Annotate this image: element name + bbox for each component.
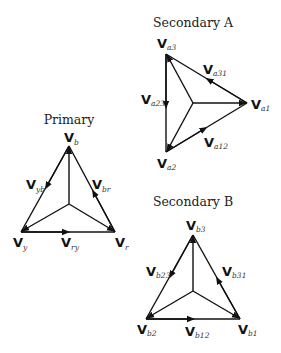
- label-vb2: Vb2: [137, 322, 157, 338]
- label-vr: Vr: [115, 235, 129, 252]
- label-va2: Va2: [157, 156, 177, 172]
- label-vb1: Vb1: [238, 322, 258, 338]
- secondary-b-diagram: Secondary B Vb3 Vb23 Vb31 Vb2 Vb12 Vb1: [137, 194, 258, 340]
- primary-title: Primary: [44, 112, 96, 127]
- label-vyb: Vyb: [26, 177, 45, 194]
- secondary-b-title: Secondary B: [153, 194, 233, 209]
- arrow-a12-icon: [166, 129, 204, 152]
- secondary-a-title: Secondary A: [153, 15, 234, 30]
- label-va3: Va3: [157, 36, 177, 52]
- label-vy: Vy: [13, 235, 28, 252]
- label-vbr: Vbr: [92, 177, 111, 194]
- label-vb3: Vb3: [186, 218, 206, 234]
- label-va12: Va12: [204, 135, 228, 151]
- label-va1: Va1: [251, 97, 270, 113]
- phasor-diagram-canvas: Primary Vb Vyb Vbr Vy Vry Vr Secondary A…: [0, 0, 281, 353]
- label-vb31: Vb31: [222, 264, 246, 280]
- arrow-b31-icon: [218, 280, 240, 319]
- arrow-b23-icon: [171, 235, 193, 275]
- arrow-yb-icon: [47, 146, 69, 186]
- label-vb: Vb: [64, 130, 79, 147]
- arrow-a31-icon: [209, 80, 247, 103]
- secondary-a-diagram: Secondary A Va3 Va31 Va23 Va1 Va12 Va2: [141, 15, 270, 172]
- label-va31: Va31: [203, 62, 227, 78]
- primary-diagram: Primary Vb Vyb Vbr Vy Vry Vr: [13, 112, 129, 252]
- label-vry: Vry: [61, 235, 80, 252]
- label-vb12: Vb12: [185, 324, 210, 340]
- label-vb23: Vb23: [146, 264, 171, 280]
- label-va23: Va23: [141, 92, 165, 108]
- arrow-br-icon: [94, 193, 115, 232]
